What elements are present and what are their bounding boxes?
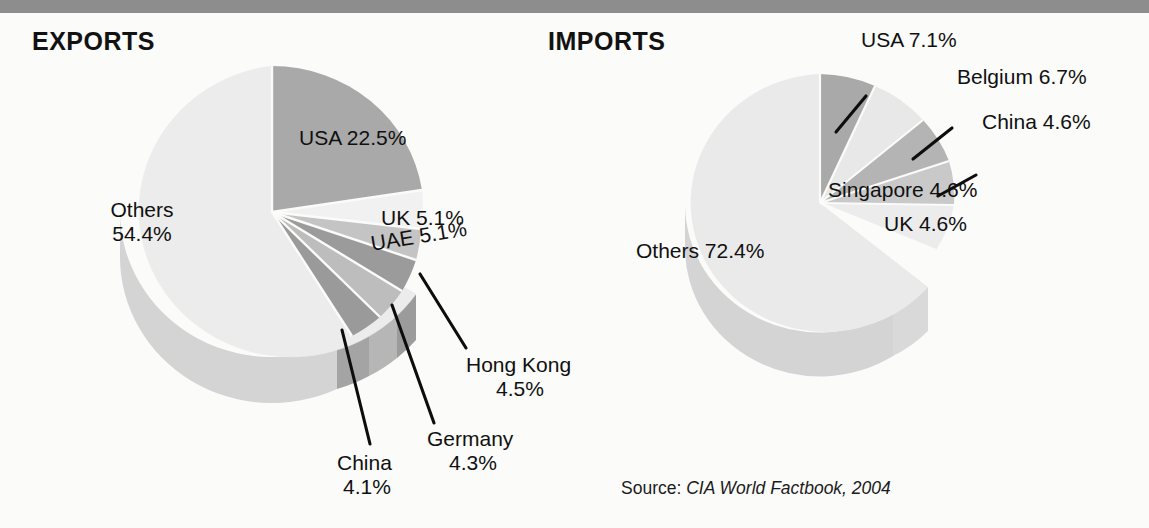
- exports-label-china-value: 4.1%: [330, 475, 404, 499]
- source-prefix: Source:: [621, 478, 686, 498]
- infographic-root: EXPORTS IMPORTS: [0, 0, 1149, 528]
- exports-label-germany-name: Germany: [427, 427, 513, 451]
- imports-label-china: China 4.6%: [982, 110, 1091, 134]
- imports-label-uk: UK 4.6%: [884, 212, 967, 236]
- exports-pie: [120, 66, 466, 444]
- imports-label-belgium: Belgium 6.7%: [957, 65, 1087, 89]
- exports-label-china-name: China: [337, 451, 392, 475]
- exports-label-hongkong-name: Hong Kong: [466, 353, 571, 377]
- exports-label-others-value: 54.4%: [84, 222, 200, 246]
- source-note: Source: CIA World Factbook, 2004: [621, 478, 891, 499]
- imports-label-usa: USA 7.1%: [861, 28, 957, 52]
- imports-label-others: Others 72.4%: [636, 239, 764, 263]
- source-reference: CIA World Factbook, 2004: [686, 478, 891, 498]
- exports-label-hongkong-value: 4.5%: [466, 377, 574, 401]
- leader-hong-kong: [420, 274, 466, 348]
- exports-label-germany-value: 4.3%: [427, 451, 519, 475]
- imports-label-singapore: Singapore 4.6%: [828, 178, 977, 202]
- exports-label-others-name: Others: [84, 198, 200, 222]
- exports-label-usa: USA 22.5%: [299, 126, 406, 150]
